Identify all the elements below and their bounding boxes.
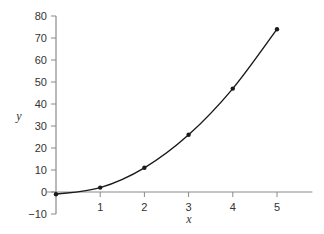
data-point — [54, 192, 58, 196]
y-axis-title: y — [15, 109, 22, 123]
y-tick-label: 40 — [35, 98, 47, 110]
x-tick-label: 1 — [97, 201, 103, 213]
y-tick-label: 70 — [35, 32, 47, 44]
data-curve — [56, 29, 277, 194]
x-tick-label: 4 — [230, 201, 236, 213]
y-tick-label: 50 — [35, 76, 47, 88]
x-axis: 12345 — [46, 192, 312, 213]
y-tick-label: 20 — [35, 142, 47, 154]
x-tick-label: 5 — [274, 201, 280, 213]
data-point — [142, 166, 146, 170]
y-tick-label: 60 — [35, 54, 47, 66]
chart: −1001020304050607080 12345 y x — [0, 0, 324, 234]
x-axis-title: x — [185, 212, 192, 226]
y-tick-label: 30 — [35, 120, 47, 132]
y-axis: −1001020304050607080 — [28, 10, 56, 220]
data-point — [186, 133, 190, 137]
y-tick-label: −10 — [28, 208, 47, 220]
x-tick-label: 2 — [141, 201, 147, 213]
y-tick-label: 80 — [35, 10, 47, 22]
data-point — [98, 185, 102, 189]
data-point — [231, 86, 235, 90]
data-markers — [54, 27, 279, 196]
data-point — [275, 27, 279, 31]
y-tick-label: 10 — [35, 164, 47, 176]
